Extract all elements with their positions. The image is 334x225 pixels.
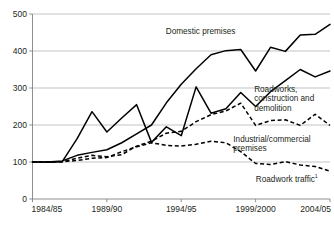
series-label-2: premises bbox=[233, 144, 266, 153]
x-tick-label: 2004/05 bbox=[300, 204, 331, 214]
series-label-0: Domestic premises bbox=[166, 27, 236, 36]
chart-canvas: 0100200300400500 1984/851989/901994/9519… bbox=[0, 0, 334, 225]
x-tick-labels: 1984/851989/901994/951999/20002004/05 bbox=[32, 204, 332, 214]
y-tick-label: 200 bbox=[13, 120, 27, 130]
y-tick-label: 400 bbox=[13, 46, 27, 56]
series-label-1: Roadworks, bbox=[254, 85, 297, 94]
series-label-1: construction and bbox=[254, 94, 315, 103]
y-tick-label: 500 bbox=[13, 9, 27, 19]
x-axis-group bbox=[33, 199, 331, 202]
y-tick-label: 0 bbox=[22, 194, 27, 204]
series-line-3 bbox=[33, 141, 331, 171]
x-tick-label: 1994/95 bbox=[166, 204, 197, 214]
series-label-2: Industrial/commercial bbox=[233, 135, 311, 144]
series-label-1: demolition bbox=[254, 104, 292, 113]
series-label-3: Roadwork traffic1 bbox=[256, 173, 318, 183]
series-label-superscript: 1 bbox=[315, 173, 318, 179]
x-tick-label: 1984/85 bbox=[32, 204, 63, 214]
x-tick-label: 1999/2000 bbox=[236, 204, 276, 214]
x-tick-label: 1989/90 bbox=[92, 204, 123, 214]
y-tick-label: 100 bbox=[13, 157, 27, 167]
y-tick-label: 300 bbox=[13, 83, 27, 93]
y-axis-group bbox=[29, 14, 32, 199]
y-tick-labels: 0100200300400500 bbox=[13, 9, 27, 204]
line-chart: 0100200300400500 1984/851989/901994/9519… bbox=[0, 0, 334, 225]
